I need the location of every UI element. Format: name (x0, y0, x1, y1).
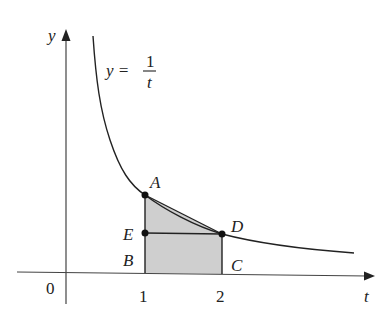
function-label-denominator: t (147, 73, 153, 92)
point-d (219, 231, 226, 238)
function-label-lhs-text: y = (104, 61, 129, 80)
x-axis-arrow-icon (364, 272, 375, 281)
function-label-lhs: y = (104, 61, 129, 80)
function-label-numerator: 1 (146, 52, 155, 71)
tick-label-1: 1 (139, 287, 148, 306)
curve-one-over-t (93, 36, 354, 253)
point-e (142, 230, 149, 237)
point-label-e: E (122, 225, 134, 244)
x-axis-label: t (364, 287, 370, 306)
origin-label: 0 (46, 279, 55, 298)
point-label-a: A (149, 173, 161, 192)
segment-ed (145, 233, 222, 234)
point-label-b: B (123, 251, 134, 270)
point-label-d: D (230, 217, 244, 236)
y-axis-arrow-icon (62, 29, 71, 41)
point-label-c: C (231, 256, 243, 275)
tick-label-2: 2 (216, 287, 225, 306)
graph-svg: y t 0 1 2 A B C D E y = 1 t (0, 0, 388, 330)
y-axis-label: y (46, 26, 56, 45)
point-a (142, 192, 149, 199)
diagram-canvas: y t 0 1 2 A B C D E y = 1 t (0, 0, 388, 330)
